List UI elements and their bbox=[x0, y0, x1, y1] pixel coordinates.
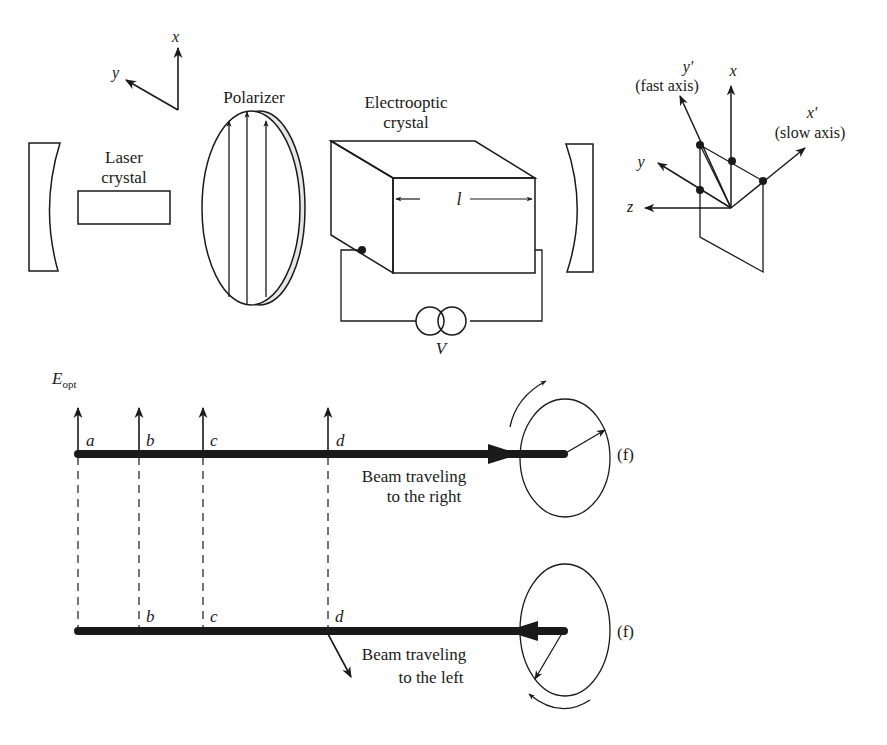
beam-right-end-label: (f) bbox=[617, 445, 634, 464]
polarizer-label: Polarizer bbox=[223, 88, 285, 107]
beam-left: b c d Beam traveling to the left (f) bbox=[78, 564, 634, 709]
svg-text:c: c bbox=[210, 431, 218, 450]
beam-left-arrow-icon bbox=[506, 621, 538, 641]
beam-right-caption-2: to the right bbox=[387, 487, 462, 506]
eo-crystal-label-2: crystal bbox=[383, 113, 429, 132]
eo-crystal-label-1: Electrooptic bbox=[364, 93, 448, 112]
svg-text:d: d bbox=[335, 607, 344, 626]
svg-text:a: a bbox=[86, 431, 95, 450]
svg-text:d: d bbox=[336, 431, 345, 450]
beam-right: a b c d Beam traveling to the right (f) bbox=[78, 381, 634, 517]
y-prime-label: y' bbox=[681, 58, 694, 76]
polarizer: Polarizer bbox=[202, 88, 305, 305]
right-mirror bbox=[566, 144, 593, 272]
beam-left-caption-1: Beam traveling bbox=[362, 645, 467, 664]
svg-text:b: b bbox=[146, 607, 155, 626]
voltage-source-icon bbox=[416, 307, 444, 335]
rotation-arrow-icon bbox=[510, 381, 546, 427]
right-y-label: y bbox=[635, 153, 645, 171]
q-switch-diagram: x y Laser crystal Polarizer Electrooptic… bbox=[0, 0, 887, 745]
svg-text:b: b bbox=[146, 431, 155, 450]
left-y-label: y bbox=[110, 64, 120, 82]
beam-right-caption-1: Beam traveling bbox=[362, 467, 467, 486]
laser-crystal: Laser crystal bbox=[78, 148, 170, 224]
length-label: l bbox=[456, 189, 461, 209]
laser-crystal-label-2: crystal bbox=[101, 168, 147, 187]
slow-axis-label: (slow axis) bbox=[775, 124, 846, 142]
field-label: Eopt bbox=[51, 369, 76, 390]
voltage-label: V bbox=[436, 339, 449, 358]
beam-left-caption-2: to the left bbox=[398, 668, 463, 687]
right-axes: y' (fast axis) x x' (slow axis) y z bbox=[626, 58, 845, 272]
left-mirror bbox=[29, 143, 60, 271]
field-vector-icon bbox=[564, 430, 605, 454]
left-x-label: x bbox=[171, 28, 179, 45]
left-axes: x y bbox=[110, 28, 179, 110]
right-z-label: z bbox=[626, 198, 634, 215]
fast-axis-label: (fast axis) bbox=[635, 77, 699, 95]
svg-text:c: c bbox=[210, 607, 218, 626]
beam-left-end-label: (f) bbox=[617, 622, 634, 641]
right-x-label: x bbox=[728, 62, 736, 79]
x-prime-label: x' bbox=[806, 104, 818, 121]
rotated-field-arrow-icon bbox=[328, 634, 351, 677]
laser-crystal-label-1: Laser bbox=[105, 148, 143, 167]
y-axis-arrow-icon bbox=[126, 80, 178, 110]
electrooptic-crystal: Electrooptic crystal l V bbox=[331, 93, 542, 358]
beam-right-arrow-icon bbox=[488, 444, 520, 464]
field-vector-icon bbox=[535, 635, 561, 679]
dashed-guides bbox=[78, 457, 328, 628]
x-prime-axis-arrow-icon bbox=[731, 148, 805, 208]
